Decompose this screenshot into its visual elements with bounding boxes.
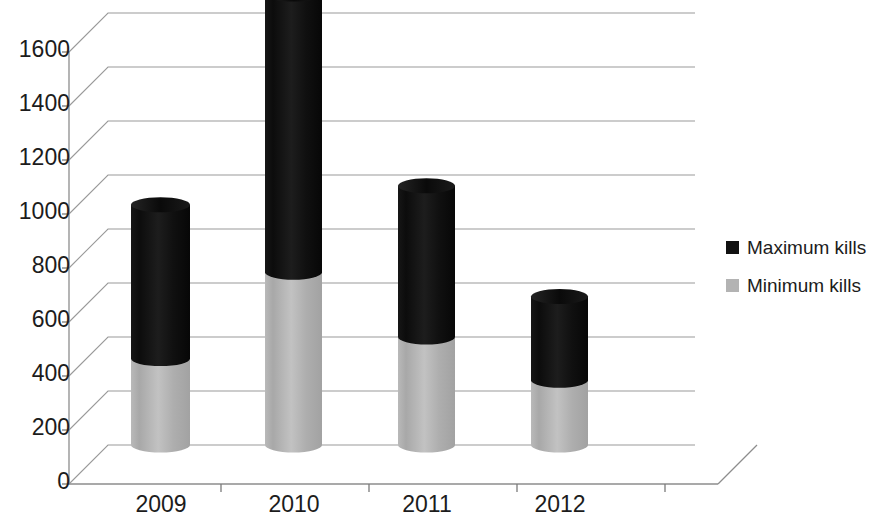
y-tick-600: 600 bbox=[8, 308, 70, 331]
bar-2010[interactable] bbox=[265, 0, 322, 453]
x-tick-2011: 2011 bbox=[367, 492, 487, 517]
legend-swatch-minimum-icon bbox=[726, 279, 739, 292]
legend-label-minimum-kills: Minimum kills bbox=[747, 275, 861, 296]
bar-2012[interactable] bbox=[531, 289, 588, 453]
y-tick-200: 200 bbox=[8, 416, 70, 439]
legend-swatch-maximum-icon bbox=[726, 241, 739, 254]
legend-item-maximum-kills[interactable]: Maximum kills bbox=[726, 228, 879, 266]
x-tick-2010: 2010 bbox=[234, 492, 354, 517]
y-tick-1200: 1200 bbox=[8, 146, 70, 169]
chart-container: 1600 1400 1200 1000 800 600 400 200 0 20… bbox=[0, 0, 879, 526]
bar-2011[interactable] bbox=[398, 178, 455, 452]
x-axis bbox=[69, 445, 757, 492]
y-tick-1000: 1000 bbox=[8, 200, 70, 223]
y-tick-400: 400 bbox=[8, 362, 70, 385]
y-tick-1600: 1600 bbox=[8, 38, 70, 61]
y-tick-0: 0 bbox=[8, 470, 70, 493]
legend-label-maximum-kills: Maximum kills bbox=[747, 237, 866, 258]
bar-2009[interactable] bbox=[131, 197, 190, 452]
x-tick-2012: 2012 bbox=[500, 492, 620, 517]
y-axis-labels: 1600 1400 1200 1000 800 600 400 200 0 bbox=[0, 0, 70, 526]
y-tick-1400: 1400 bbox=[8, 92, 70, 115]
chart-legend: Maximum kills Minimum kills bbox=[726, 228, 879, 304]
x-tick-2009: 2009 bbox=[101, 492, 221, 517]
y-tick-800: 800 bbox=[8, 254, 70, 277]
legend-item-minimum-kills[interactable]: Minimum kills bbox=[726, 266, 879, 304]
